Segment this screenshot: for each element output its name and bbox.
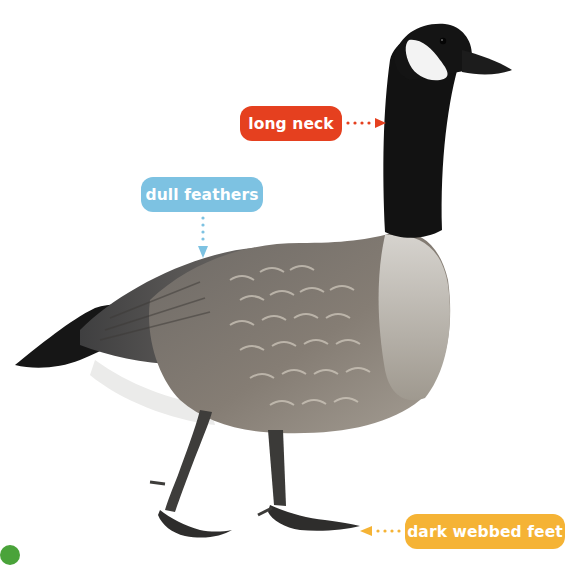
label-dull-feathers-text: dull feathers — [146, 186, 259, 204]
label-long-neck: long neck — [240, 106, 342, 141]
right-foot — [268, 505, 360, 531]
label-dull-feathers: dull feathers — [141, 177, 263, 212]
bill — [462, 50, 512, 74]
eye — [440, 38, 446, 44]
left-leg — [165, 410, 212, 512]
label-long-neck-text: long neck — [248, 115, 333, 133]
left-foot — [158, 510, 232, 538]
neck-pointer — [346, 118, 386, 128]
breast — [379, 235, 450, 401]
feet-pointer — [360, 526, 401, 536]
corner-leaf-decoration — [0, 545, 20, 565]
feathers-pointer — [198, 216, 208, 258]
label-dark-webbed-feet-text: dark webbed feet — [407, 523, 563, 541]
label-dark-webbed-feet: dark webbed feet — [405, 514, 565, 549]
right-leg — [268, 430, 286, 506]
